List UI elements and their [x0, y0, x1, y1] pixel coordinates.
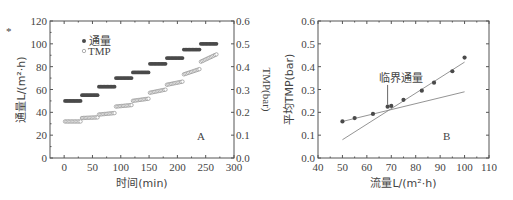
- x-tick-label: 50: [87, 161, 99, 173]
- y-tick-label: 80: [36, 61, 48, 73]
- x-tick-label: 200: [169, 161, 186, 173]
- y2-tick-label: 0.2: [236, 106, 250, 118]
- legend-flux-marker: [82, 39, 86, 43]
- data-point: [432, 81, 436, 85]
- y-tick-label: 0.6: [301, 15, 315, 27]
- y-tick-label: 0.0: [301, 152, 315, 164]
- y-axis-label-a: 通量L/(m²·h): [15, 56, 28, 122]
- data-point: [353, 116, 357, 120]
- tmp-point: [164, 88, 167, 91]
- y-tick-label: 0.1: [301, 129, 315, 141]
- x-tick-label: 80: [410, 161, 422, 173]
- legend-tmp-marker: [82, 49, 85, 52]
- y2-tick-label: 0.6: [236, 15, 250, 27]
- y2-tick-label: 0.1: [236, 129, 250, 141]
- y-tick-label: 0.4: [301, 61, 315, 73]
- data-point: [401, 98, 405, 102]
- x-tick-label: 60: [361, 161, 373, 173]
- y-tick-label: 60: [36, 84, 48, 96]
- figure-mark: *: [6, 25, 12, 37]
- x-tick-label: 50: [337, 161, 349, 173]
- x-axis-label-b: 流量L/(m²·h): [370, 176, 436, 190]
- x-tick-label: 250: [197, 161, 214, 173]
- chart-b: 4050607080901001100.00.10.20.30.40.50.6临…: [283, 15, 498, 190]
- x-tick-label: 110: [481, 161, 498, 173]
- y2-tick-label: 0.4: [236, 61, 250, 73]
- data-point: [450, 69, 454, 73]
- y-tick-label: 40: [36, 106, 48, 118]
- data-point: [371, 112, 375, 116]
- tmp-point: [130, 103, 133, 106]
- flux-point: [198, 48, 202, 52]
- flux-point: [130, 76, 134, 80]
- y-tick-label: 20: [36, 129, 48, 141]
- y-tick-label: 120: [31, 15, 48, 27]
- flux-point: [113, 85, 117, 89]
- chart-a: 0501001502002503000204060801001200.00.10…: [15, 15, 273, 190]
- data-point: [386, 105, 390, 109]
- data-point: [340, 119, 344, 123]
- tmp-point: [113, 111, 116, 114]
- y-tick-label: 0.2: [301, 106, 315, 118]
- y2-axis-label-a: TMP(bar): [260, 68, 273, 112]
- flux-point: [181, 56, 185, 60]
- legend-tmp-label: TMP: [88, 45, 111, 57]
- y-tick-label: 0.3: [301, 84, 315, 96]
- tmp-point: [147, 97, 150, 100]
- tmp-point: [181, 80, 184, 83]
- critical-flux-label: 临界通量: [379, 71, 423, 85]
- flux-point: [164, 62, 168, 66]
- flux-point: [96, 93, 100, 97]
- y2-tick-label: 0.3: [236, 84, 250, 96]
- x-tick-label: 100: [456, 161, 473, 173]
- tmp-point: [198, 67, 201, 70]
- panel-label-b: B: [443, 130, 450, 142]
- tmp-point: [79, 120, 82, 123]
- data-point: [462, 55, 466, 59]
- plot-frame-b: [318, 21, 489, 158]
- y-tick-label: 100: [31, 38, 48, 50]
- y2-tick-label: 0.0: [236, 152, 250, 164]
- tmp-point: [215, 53, 218, 56]
- x-tick-label: 150: [141, 161, 158, 173]
- data-point: [420, 89, 424, 93]
- x-tick-label: 100: [113, 161, 130, 173]
- flux-point: [147, 70, 151, 74]
- fit-line: [342, 92, 464, 122]
- y-tick-label: 0: [42, 152, 48, 164]
- x-tick-label: 70: [386, 161, 398, 173]
- flux-point: [215, 42, 219, 46]
- panel-label-a: A: [197, 130, 205, 142]
- data-point: [389, 104, 393, 108]
- plot-frame-a: [50, 21, 234, 158]
- y-tick-label: 0.5: [301, 38, 315, 50]
- x-tick-label: 0: [61, 161, 67, 173]
- figure: *0501001502002503000204060801001200.00.1…: [0, 0, 513, 200]
- x-tick-label: 90: [435, 161, 447, 173]
- flux-point: [79, 99, 83, 103]
- y2-tick-label: 0.5: [236, 38, 250, 50]
- y-axis-label-b: 平均TMP(bar): [283, 54, 296, 126]
- x-axis-label-a: 时间(min): [116, 177, 167, 190]
